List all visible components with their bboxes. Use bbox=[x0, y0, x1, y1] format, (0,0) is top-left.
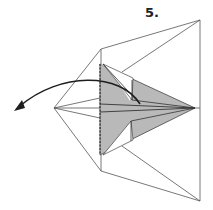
fold-diagram-svg bbox=[0, 0, 213, 210]
gray-folded-flap bbox=[100, 64, 195, 155]
arrowhead-icon bbox=[14, 100, 25, 111]
